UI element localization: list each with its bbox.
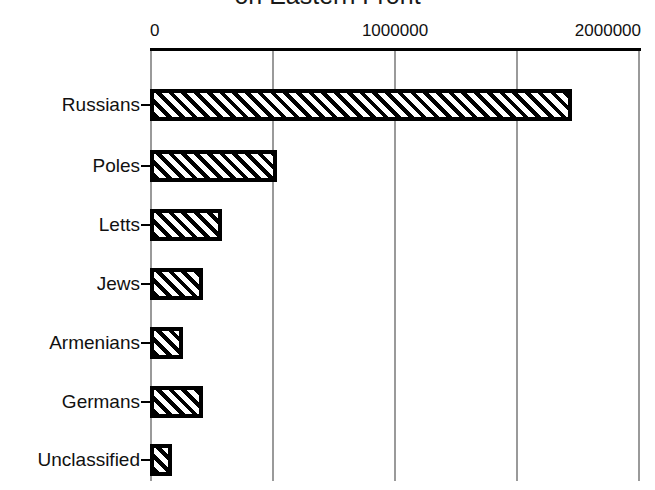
bar-armenians[interactable]	[150, 327, 183, 359]
chart-title: on Eastern Front	[0, 0, 655, 10]
bar-jews[interactable]	[150, 268, 203, 300]
x-tick-label-1000000: 1000000	[362, 21, 428, 41]
bar-row-russians: Russians	[0, 89, 655, 121]
bar-poles[interactable]	[150, 150, 277, 182]
category-label-poles: Poles	[92, 150, 140, 182]
bar-row-unclassified: Unclassified	[0, 444, 655, 476]
category-label-russians: Russians	[62, 89, 140, 121]
category-label-jews: Jews	[97, 268, 140, 300]
category-label-armenians: Armenians	[49, 327, 140, 359]
bar-row-poles: Poles	[0, 150, 655, 182]
bar-row-armenians: Armenians	[0, 327, 655, 359]
bar-russians[interactable]	[150, 89, 572, 121]
bar-germans[interactable]	[150, 386, 203, 418]
category-label-letts: Letts	[99, 209, 140, 241]
bar-letts[interactable]	[150, 209, 222, 241]
bar-row-germans: Germans	[0, 386, 655, 418]
bar-chart: on Eastern Front 0 1000000 2000000 Russi…	[0, 0, 655, 490]
x-tick-label-0: 0	[150, 21, 159, 41]
bar-row-letts: Letts	[0, 209, 655, 241]
category-label-unclassified: Unclassified	[38, 444, 140, 476]
bar-unclassified[interactable]	[150, 444, 172, 476]
x-tick-label-2000000: 2000000	[575, 21, 641, 41]
category-label-germans: Germans	[62, 386, 140, 418]
bar-row-jews: Jews	[0, 268, 655, 300]
